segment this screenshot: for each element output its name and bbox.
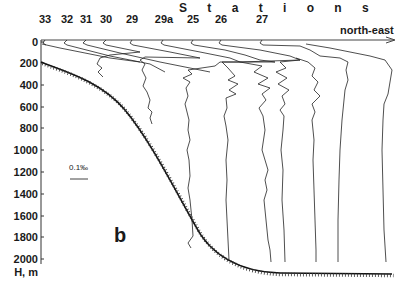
station-label: 32 xyxy=(61,13,73,25)
station-label: 29 xyxy=(126,13,138,25)
profile-30 xyxy=(97,40,140,77)
y-tick-label: 200 xyxy=(20,57,38,69)
profile-29a xyxy=(161,40,240,248)
profile-extra-2 xyxy=(296,58,320,262)
y-tick-label: 1800 xyxy=(14,231,38,243)
y-tick-label: 0 xyxy=(32,36,38,48)
station-label: 25 xyxy=(187,13,199,25)
y-tick-label: 1200 xyxy=(14,166,38,178)
station-label: 30 xyxy=(100,13,112,25)
profiles-plot xyxy=(0,0,413,292)
station-label: 26 xyxy=(215,13,227,25)
seabed-profile xyxy=(41,62,394,276)
profile-far-east xyxy=(306,44,392,262)
stations-title: S t a t i o n s xyxy=(179,1,377,15)
station-label: 27 xyxy=(256,13,268,25)
y-tick-label: 400 xyxy=(20,79,38,91)
panel-label: b xyxy=(114,224,126,247)
scale-bar-label: 0.1‰ xyxy=(69,163,88,172)
y-axis-label: H, m xyxy=(14,266,38,278)
y-tick-label: 600 xyxy=(20,101,38,113)
direction-label: north-east xyxy=(340,24,394,36)
profile-32 xyxy=(64,40,165,72)
profile-26 xyxy=(219,40,300,262)
y-tick-label: 1400 xyxy=(14,188,38,200)
y-tick-label: 2000 xyxy=(14,253,38,265)
station-label: 31 xyxy=(80,13,92,25)
north-east-arrow-icon xyxy=(41,37,395,43)
y-tick-label: 1000 xyxy=(14,144,38,156)
profile-extra-1 xyxy=(276,60,300,262)
profile-27 xyxy=(260,40,348,262)
station-label: 29a xyxy=(155,13,173,25)
vertical-profiles-diagram: S t a t i o n s 33 32 31 30 29 29a 25 26… xyxy=(0,0,413,292)
station-profiles xyxy=(42,40,392,262)
y-tick-label: 800 xyxy=(20,122,38,134)
station-label: 33 xyxy=(39,13,51,25)
y-tick-label: 1600 xyxy=(14,210,38,222)
